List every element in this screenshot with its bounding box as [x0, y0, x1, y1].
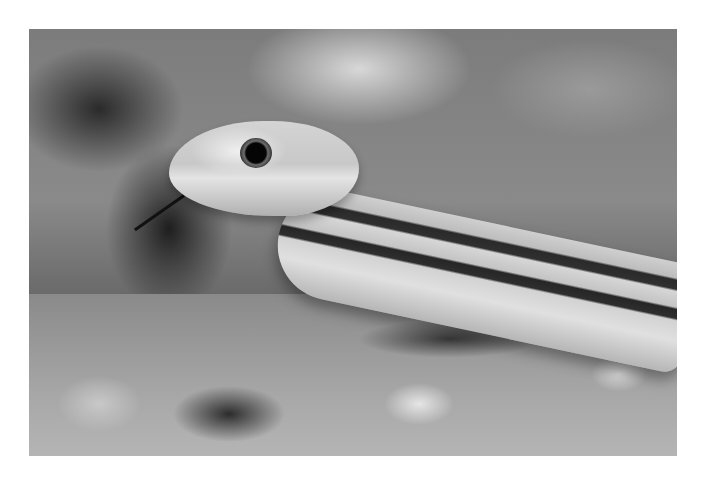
snake-tongue — [134, 194, 185, 231]
snake-head — [169, 121, 359, 216]
snake-photograph — [29, 29, 677, 456]
snake-eye — [240, 138, 272, 168]
